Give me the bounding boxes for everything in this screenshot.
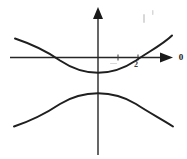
y-axis [93,7,103,155]
x-axis [10,53,173,63]
graph-canvas: 2 0 [0,0,187,159]
hyperbola-upper-branch [15,36,172,73]
y-axis-arrowhead [93,7,103,19]
x-tick-label-2: 2 [134,60,138,69]
x-axis-end-label: 0 [179,52,184,62]
hyperbola-lower-branch [14,93,173,126]
x-axis-arrowhead [160,53,173,63]
hyperbola-figure: 2 0 [0,0,187,159]
scan-artifacts [110,10,154,64]
